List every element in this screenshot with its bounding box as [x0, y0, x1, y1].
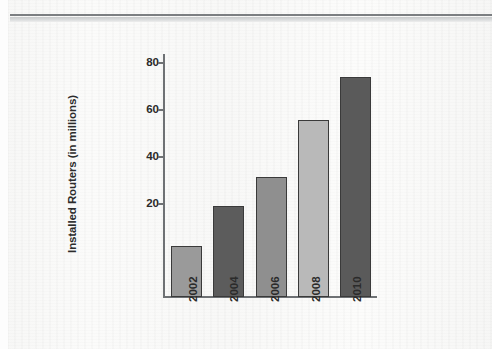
- x-tick-label-2004: 2004: [228, 258, 240, 302]
- y-axis-label: Installed Routers (in millions): [66, 69, 78, 279]
- x-tick-label-2002: 2002: [187, 258, 199, 302]
- y-tick-label-80: 80: [133, 56, 159, 68]
- x-tick-label-2006: 2006: [269, 258, 281, 302]
- y-tick-label-60: 60: [133, 103, 159, 115]
- y-tick-label-20: 20: [133, 197, 159, 209]
- scanned-page: Installed Routers (in millions) 80 60 40…: [0, 0, 501, 349]
- x-tick-label-2010: 2010: [351, 258, 363, 302]
- bar-chart: Installed Routers (in millions) 80 60 40…: [0, 0, 501, 349]
- y-tick-label-40: 40: [133, 150, 159, 162]
- x-tick-label-2008: 2008: [310, 258, 322, 302]
